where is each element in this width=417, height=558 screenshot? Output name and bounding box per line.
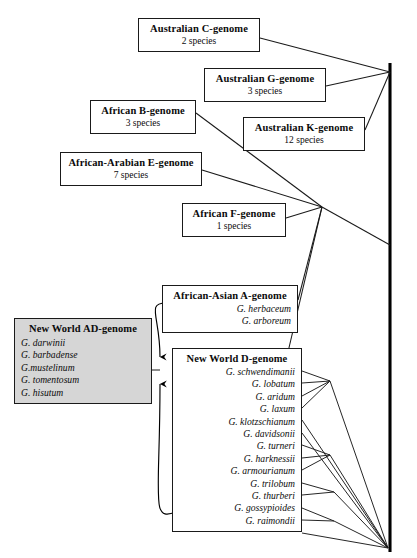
node-african-asian-a-genome[interactable]: African-Asian A-genome G. herbaceumG. ar…	[162, 285, 298, 333]
node-subtitle: 2 species	[145, 35, 253, 47]
species-name: G. thurberi	[179, 490, 295, 502]
node-title: Australian C-genome	[145, 22, 253, 35]
species-name: G. tomentosum	[21, 374, 145, 386]
species-name: G. raimondii	[179, 515, 295, 527]
node-title: Australian K-genome	[250, 121, 358, 134]
species-name: G. barbadense	[21, 349, 145, 361]
node-title: African-Asian A-genome	[169, 289, 291, 302]
node-australian-g-genome[interactable]: Australian G-genome 3 species	[204, 68, 326, 102]
node-title: New World D-genome	[179, 352, 295, 365]
species-list: G. darwiniiG. barbadenseG.mustelinumG. t…	[21, 337, 145, 399]
node-title: African F-genome	[189, 207, 279, 220]
node-australian-c-genome[interactable]: Australian C-genome 2 species	[138, 18, 260, 52]
species-name: G. aridum	[179, 391, 295, 403]
species-name: G. herbaceum	[169, 303, 291, 315]
species-name: G. darwinii	[21, 337, 145, 349]
node-subtitle: 3 species	[211, 85, 319, 97]
node-subtitle: 3 species	[97, 117, 189, 129]
species-name: G. hisutum	[21, 387, 145, 399]
species-name: G. lobatum	[179, 378, 295, 390]
species-name: G. gossypioides	[179, 502, 295, 514]
node-title: African B-genome	[97, 104, 189, 117]
species-list: G. schwendimaniiG. lobatumG. aridumG. la…	[179, 366, 295, 527]
node-new-world-ad-genome[interactable]: New World AD-genome G. darwiniiG. barbad…	[14, 318, 152, 404]
species-name: G. armourianum	[179, 465, 295, 477]
species-name: G. laxum	[179, 403, 295, 415]
node-new-world-d-genome[interactable]: New World D-genome G. schwendimaniiG. lo…	[172, 348, 302, 532]
node-title: New World AD-genome	[21, 322, 145, 335]
species-name: G. klotzschianum	[179, 416, 295, 428]
node-subtitle: 7 species	[67, 169, 195, 181]
node-australian-k-genome[interactable]: Australian K-genome 12 species	[243, 117, 365, 151]
node-african-f-genome[interactable]: African F-genome 1 species	[182, 203, 286, 237]
species-name: G. harknessii	[179, 453, 295, 465]
node-subtitle: 12 species	[250, 134, 358, 146]
species-name: G. arboreum	[169, 315, 291, 327]
species-name: G. davidsonii	[179, 428, 295, 440]
node-african-b-genome[interactable]: African B-genome 3 species	[90, 100, 196, 134]
node-title: African-Arabian E-genome	[67, 156, 195, 169]
species-name: G. turneri	[179, 440, 295, 452]
species-name: G. trilobum	[179, 478, 295, 490]
node-subtitle: 1 species	[189, 220, 279, 232]
d-genome-edges	[302, 371, 388, 548]
species-name: G. schwendimanii	[179, 366, 295, 378]
phylogeny-diagram: Australian C-genome 2 species Australian…	[0, 0, 417, 558]
species-name: G.mustelinum	[21, 362, 145, 374]
species-list: G. herbaceumG. arboreum	[169, 303, 291, 328]
node-title: Australian G-genome	[211, 72, 319, 85]
node-african-arabian-e-genome[interactable]: African-Arabian E-genome 7 species	[60, 152, 202, 186]
